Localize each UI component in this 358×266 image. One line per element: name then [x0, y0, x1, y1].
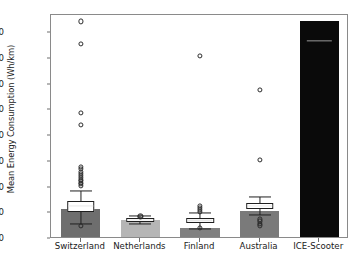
boxplot-median-netherlands: [128, 220, 153, 221]
boxplot-whisker-cap-switzerland: [70, 191, 92, 192]
y-axis-label: Mean Energy Consumption (Wh/km): [6, 45, 16, 193]
plot-area: [50, 14, 348, 238]
x-tick-label-switzerland: Switzerland: [55, 241, 105, 251]
y-tick-label: 300: [0, 156, 4, 166]
boxplot-whisker-cap-australia: [249, 214, 271, 215]
x-tick-mark: [259, 238, 260, 242]
outlier-point-switzerland: [78, 183, 83, 188]
boxplot-whisker-cap-australia: [249, 196, 271, 197]
y-tick-label: 600: [0, 79, 4, 89]
boxplot-median-australia: [247, 205, 272, 206]
y-tick-label: 0: [0, 233, 4, 243]
x-tick-mark: [139, 238, 140, 242]
x-tick-label-australia: Australia: [240, 241, 278, 251]
outlier-point-switzerland: [78, 122, 83, 127]
y-tick-label: 200: [0, 182, 4, 192]
bar-ice-scooter: [300, 21, 339, 238]
x-tick-label-ice-scooter: ICE-Scooter: [293, 241, 343, 251]
y-tick-label: 700: [0, 53, 4, 63]
outlier-point-australia: [257, 157, 262, 162]
outlier-point-australia: [257, 88, 262, 93]
boxplot-whisker-cap-netherlands: [129, 223, 151, 224]
y-tick-label: 400: [0, 130, 4, 140]
boxplot-median-switzerland: [68, 205, 93, 206]
y-tick-label: 100: [0, 207, 4, 217]
outlier-point-finland: [197, 53, 202, 58]
x-tick-mark: [80, 238, 81, 242]
outlier-point-switzerland: [78, 19, 83, 24]
boxplot-median-ice-scooter: [307, 40, 331, 41]
outlier-point-switzerland: [78, 42, 83, 47]
x-tick-label-netherlands: Netherlands: [113, 241, 165, 251]
x-tick-mark: [318, 238, 319, 242]
x-tick-mark: [199, 238, 200, 242]
boxplot-box-switzerland: [67, 201, 95, 212]
energy-consumption-chart: Mean Energy Consumption (Wh/km) 01002003…: [0, 0, 358, 266]
y-tick-label: 500: [0, 104, 4, 114]
outlier-point-switzerland: [78, 110, 83, 115]
x-tick-label-finland: Finland: [184, 241, 215, 251]
boxplot-median-finland: [187, 220, 212, 221]
y-tick-label: 800: [0, 27, 4, 37]
